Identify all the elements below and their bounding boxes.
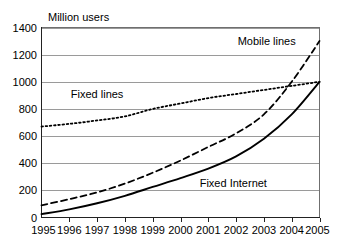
line-chart: 0200400600800100012001400 19951996199719… <box>0 0 348 245</box>
y-tick-label-200: 200 <box>19 184 37 196</box>
x-tick-label-2001: 2001 <box>196 224 220 236</box>
y-tick-label-1200: 1200 <box>13 49 37 61</box>
x-tick-label-1998: 1998 <box>113 224 137 236</box>
x-tick-label-2002: 2002 <box>224 224 248 236</box>
chart-container: 0200400600800100012001400 19951996199719… <box>0 0 348 245</box>
x-tick-label-1996: 1996 <box>57 224 81 236</box>
x-tick-label-2003: 2003 <box>252 224 276 236</box>
y-tick-label-1000: 1000 <box>13 76 37 88</box>
y-axis-title: Million users <box>48 11 110 23</box>
y-tick-label-600: 600 <box>19 130 37 142</box>
series-label-fixed-lines: Fixed lines <box>71 88 124 100</box>
x-tick-label-2004: 2004 <box>279 224 303 236</box>
y-tick-label-400: 400 <box>19 157 37 169</box>
series-label-mobile-lines: Mobile lines <box>238 35 297 47</box>
x-tick-label-1997: 1997 <box>85 224 109 236</box>
x-tick-label-group: 1995199619971998199920002001200220032004… <box>31 224 329 236</box>
y-tick-label-800: 800 <box>19 103 37 115</box>
series-label-fixed-internet: Fixed Internet <box>200 177 267 189</box>
y-tick-label-1400: 1400 <box>13 22 37 34</box>
x-tick-label-2005: 2005 <box>305 224 329 236</box>
chart-background <box>0 0 348 245</box>
x-tick-label-2000: 2000 <box>168 224 192 236</box>
x-tick-label-1995: 1995 <box>31 224 55 236</box>
x-tick-label-1999: 1999 <box>140 224 164 236</box>
y-tick-label-0: 0 <box>31 212 37 224</box>
